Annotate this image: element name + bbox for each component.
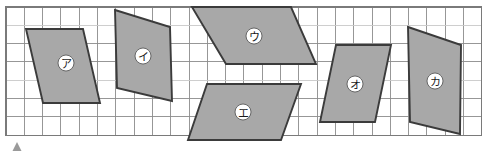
- shape-label-text: オ: [350, 79, 361, 91]
- grid-diagram: アイウエオカ: [0, 0, 482, 156]
- shape-label-text: ア: [61, 58, 72, 70]
- up-triangle-marker: [13, 142, 22, 151]
- shape-label-text: カ: [430, 76, 441, 88]
- figure-canvas: アイウエオカ: [0, 0, 482, 156]
- shape-label-text: エ: [238, 107, 249, 119]
- shape-label-text: イ: [138, 51, 149, 63]
- shape-label-text: ウ: [249, 31, 260, 43]
